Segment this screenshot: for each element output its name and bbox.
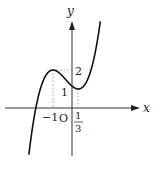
- y-axis-arrow-icon: [69, 21, 75, 30]
- function-graph: x y 2 1 −1 O 1 3: [0, 0, 160, 169]
- tick-label-x-frac-numerator: 1: [75, 110, 81, 121]
- tick-label-x-neg1: −1: [42, 111, 58, 124]
- x-axis-label: x: [143, 101, 150, 115]
- y-axis-label: y: [66, 4, 74, 18]
- origin-label: O: [59, 112, 68, 125]
- tick-label-y-2: 2: [75, 65, 82, 78]
- tick-label-y-1: 1: [61, 86, 68, 99]
- tick-label-x-frac-denominator: 3: [75, 123, 81, 134]
- x-axis-arrow-icon: [131, 105, 140, 111]
